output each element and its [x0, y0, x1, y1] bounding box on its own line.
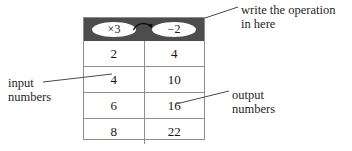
curved-arrow-icon	[132, 19, 154, 33]
input-cell[interactable]: 4	[84, 67, 144, 93]
table-row: 8 22	[84, 119, 204, 145]
output-cell[interactable]: 16	[144, 93, 204, 119]
annotation-operation: write the operation in here	[241, 3, 335, 31]
output-cell[interactable]: 22	[144, 119, 204, 145]
operation-oval-output[interactable]: −2	[152, 22, 196, 37]
operation-oval-input[interactable]: ×3	[92, 22, 136, 37]
output-cell[interactable]: 4	[144, 41, 204, 67]
input-cell[interactable]: 8	[84, 119, 144, 145]
input-cell[interactable]: 6	[84, 93, 144, 119]
operation-header-bar: ×3 −2	[84, 18, 204, 41]
output-cell[interactable]: 10	[144, 67, 204, 93]
annotation-output: output numbers	[232, 88, 275, 116]
function-machine-table: ×3 −2 2 4 4 10 6 16	[83, 17, 205, 140]
input-cell[interactable]: 2	[84, 41, 144, 67]
diagram-canvas: ×3 −2 2 4 4 10 6 16	[0, 0, 352, 151]
table-row: 2 4	[84, 41, 204, 67]
table-row: 6 16	[84, 93, 204, 119]
table-row: 4 10	[84, 67, 204, 93]
annotation-input: input numbers	[8, 76, 51, 104]
values-table: 2 4 4 10 6 16 8 22	[84, 41, 204, 144]
leader-line-operation	[205, 7, 238, 18]
